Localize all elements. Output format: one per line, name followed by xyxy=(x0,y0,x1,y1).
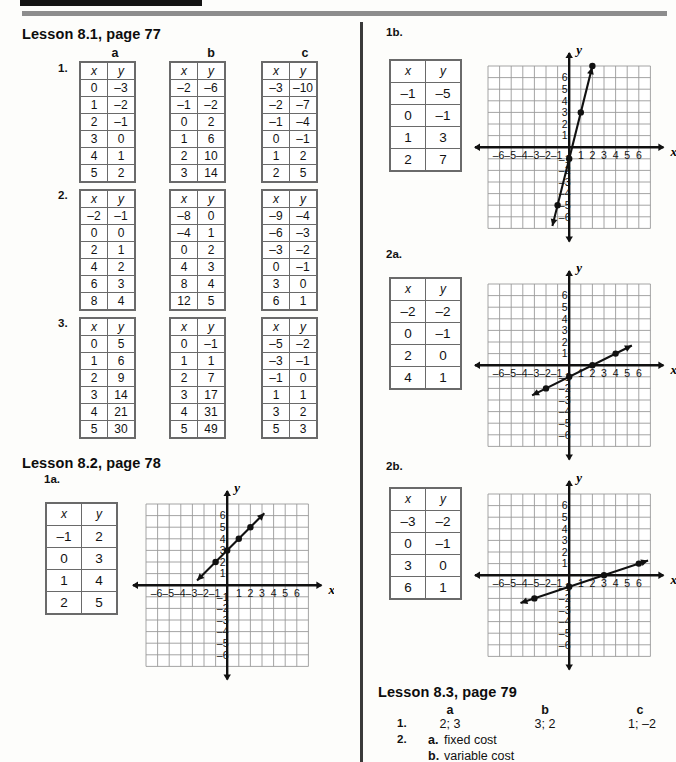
table-cell: 2 xyxy=(391,345,426,367)
table-row: 29 xyxy=(81,370,135,387)
data-point xyxy=(566,374,572,380)
table-row: 61 xyxy=(391,577,461,599)
table-cell: –2 xyxy=(391,301,426,323)
coordinate-graph: –6–5–4–3–2–1123456654321–1–2–3–4–5–6xy xyxy=(462,258,676,472)
svg-text:2: 2 xyxy=(247,587,253,599)
table-cell: –5 xyxy=(426,83,461,105)
svg-text:3: 3 xyxy=(259,587,265,599)
table-cell: –2 xyxy=(171,80,198,97)
table-cell: 21 xyxy=(108,404,135,421)
svg-text:x: x xyxy=(669,362,676,377)
top-gray-rule xyxy=(22,11,667,16)
table-row: –5–2 xyxy=(263,336,317,353)
table-cell: –4 xyxy=(171,225,198,242)
table-row: –3–2 xyxy=(391,511,461,533)
table-cell: –2 xyxy=(108,97,135,114)
table-cell: –1 xyxy=(171,97,198,114)
svg-text:4: 4 xyxy=(613,367,619,379)
svg-text:–2: –2 xyxy=(559,592,571,604)
table-cell: –1 xyxy=(263,114,290,131)
svg-text:2: 2 xyxy=(562,118,568,130)
lesson-8-1-problem-3-number: 3. xyxy=(58,317,68,329)
data-point xyxy=(601,572,607,578)
table-cell: –2 xyxy=(426,301,461,323)
lesson-8-1-col-header-a: a xyxy=(98,46,132,60)
svg-text:3: 3 xyxy=(562,106,568,118)
data-point xyxy=(589,362,595,368)
table-cell: –1 xyxy=(198,336,225,353)
table-cell: 0 xyxy=(81,336,108,353)
svg-text:–2: –2 xyxy=(539,149,551,161)
xy-table: xy0–31–22–1304152 xyxy=(80,62,135,182)
table-cell: 2 xyxy=(290,404,317,421)
table-cell: 0 xyxy=(171,242,198,259)
svg-text:–6: –6 xyxy=(493,367,505,379)
table-cell: 4 xyxy=(81,148,108,165)
table-row: –2–7 xyxy=(263,97,317,114)
table-cell: 2 xyxy=(198,242,225,259)
svg-text:y: y xyxy=(574,470,582,485)
data-point xyxy=(566,156,572,162)
svg-text:–5: –5 xyxy=(504,367,516,379)
table-cell: 0 xyxy=(171,114,198,131)
table-cell: 2 xyxy=(81,370,108,387)
svg-text:4: 4 xyxy=(271,587,277,599)
svg-text:–3: –3 xyxy=(528,367,540,379)
table-header-cell: y xyxy=(108,319,135,336)
table-row: 21 xyxy=(81,242,135,259)
lesson-8-2-item-2a-label: 2a. xyxy=(386,248,402,260)
table-cell: –1 xyxy=(290,131,317,148)
table-cell: 2 xyxy=(108,165,135,182)
lesson-8-2-item-2b-label: 2b. xyxy=(386,460,403,472)
table-row: –80 xyxy=(171,208,225,225)
table-header-cell: x xyxy=(171,191,198,208)
table-cell: 1 xyxy=(426,577,461,599)
table-cell: –9 xyxy=(263,208,290,225)
svg-text:–6: –6 xyxy=(493,577,505,589)
svg-text:–4: –4 xyxy=(516,367,528,379)
svg-text:1: 1 xyxy=(578,149,584,161)
table-header-row: xy xyxy=(171,191,225,208)
table-cell: 3 xyxy=(108,276,135,293)
svg-text:x: x xyxy=(669,144,676,159)
svg-text:–1: –1 xyxy=(217,591,229,603)
table-cell: 4 xyxy=(171,259,198,276)
table-row: 52 xyxy=(81,165,135,182)
table-header-row: xy xyxy=(263,63,317,80)
table-header-cell: y xyxy=(108,191,135,208)
table-cell: 1 xyxy=(198,225,225,242)
table-row: 00 xyxy=(81,225,135,242)
table-cell: 0 xyxy=(290,370,317,387)
table-row: 210 xyxy=(171,148,225,165)
lesson-8-1-heading: Lesson 8.1, page 77 xyxy=(22,26,161,42)
table-cell: 2 xyxy=(171,148,198,165)
xy-table: xy–3–10–2–7–1–40–11225 xyxy=(262,62,317,182)
table-header-cell: x xyxy=(391,489,426,511)
table-row: 431 xyxy=(171,404,225,421)
table-row: 125 xyxy=(171,293,225,310)
table-cell: 0 xyxy=(47,548,82,570)
data-point xyxy=(212,559,218,565)
data-point xyxy=(636,560,642,566)
table-cell: –3 xyxy=(263,353,290,370)
table-row: 0–1 xyxy=(171,336,225,353)
svg-text:–3: –3 xyxy=(186,587,198,599)
table-header-cell: y xyxy=(290,319,317,336)
table-header-row: xy xyxy=(391,489,461,511)
table-header-cell: x xyxy=(391,61,426,83)
table-header-cell: x xyxy=(391,279,426,301)
svg-text:3: 3 xyxy=(601,577,607,589)
table-cell: –6 xyxy=(263,225,290,242)
lesson-8-2-item-1a-label: 1a. xyxy=(44,473,60,485)
table-cell: 2 xyxy=(198,114,225,131)
table-row: –2–1 xyxy=(81,208,135,225)
xy-table: xy–12031425 xyxy=(46,503,117,614)
table-row: 27 xyxy=(391,149,461,171)
table-row: –3–1 xyxy=(263,353,317,370)
table-cell: 0 xyxy=(81,225,108,242)
table-row: –12 xyxy=(47,526,117,548)
table-cell: 5 xyxy=(263,421,290,438)
table-cell: 4 xyxy=(198,276,225,293)
table-cell: –1 xyxy=(426,533,461,555)
xy-table: xy051629314421530 xyxy=(80,318,135,438)
